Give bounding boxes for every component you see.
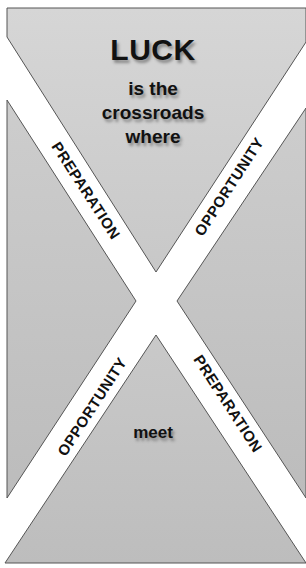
headline: LUCK (0, 33, 306, 67)
tagline-line-2: crossroads (0, 102, 306, 124)
tagline-line-1: is the (0, 78, 306, 100)
